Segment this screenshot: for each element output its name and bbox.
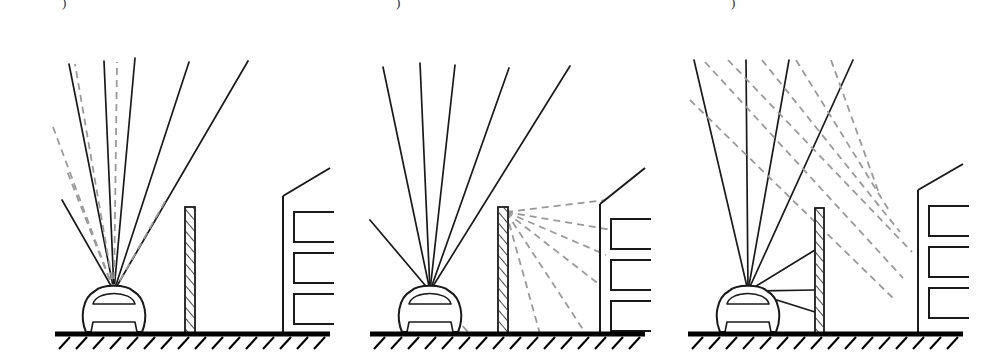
ground-hatch-tick: [828, 337, 839, 349]
ground-hatch-tick: [544, 337, 555, 349]
solid-sound-ray: [746, 60, 748, 291]
solid-sound-ray: [370, 220, 430, 291]
diffracted-sound-ray: [506, 212, 586, 334]
ground-hatch-tick: [391, 337, 402, 349]
building-window: [611, 260, 651, 290]
ground-hatch-tick: [229, 337, 240, 349]
ground-hatch-tick: [709, 337, 720, 349]
ground-hatch-tick: [612, 337, 623, 349]
ground-hatch-tick: [93, 337, 104, 349]
ground-hatch-tick: [178, 337, 189, 349]
ground-hatch-tick: [913, 337, 924, 349]
ground-hatch-tick: [743, 337, 754, 349]
ground-hatch-tick: [212, 337, 223, 349]
ground-hatch-tick: [896, 337, 907, 349]
dashed-sound-ray: [67, 171, 114, 291]
ground-hatch-tick: [760, 337, 771, 349]
ground-hatch-tick: [425, 337, 436, 349]
building-window: [611, 301, 651, 331]
solid-sound-ray: [694, 60, 748, 291]
sound-propagation-diagram: [0, 0, 1002, 364]
panel-c: [688, 60, 969, 349]
vehicle-sill: [91, 322, 137, 332]
ground-hatch-tick: [692, 337, 703, 349]
ground-hatch-tick: [459, 337, 470, 349]
diffracted-sound-ray: [506, 212, 600, 285]
ground-hatch-tick: [476, 337, 487, 349]
ground-hatch-tick: [161, 337, 172, 349]
diffracted-sound-ray: [506, 200, 606, 212]
building-window: [294, 212, 334, 242]
solid-sound-ray: [420, 63, 430, 291]
ground-hatch-tick: [493, 337, 504, 349]
ground-hatch-tick: [144, 337, 155, 349]
noise-barrier-hatch: [816, 209, 823, 333]
reflected-sound-ray: [690, 100, 895, 300]
ground-hatch-tick: [862, 337, 873, 349]
building-roof: [283, 168, 330, 196]
ground-hatch-tick: [263, 337, 274, 349]
ground-hatch-tick: [314, 337, 325, 349]
noise-barrier-hatch: [499, 208, 507, 333]
ground-hatch-tick: [76, 337, 87, 349]
building-window: [929, 247, 969, 277]
reflected-sound-ray: [705, 62, 903, 278]
building-window: [611, 219, 651, 249]
ground-hatch-tick: [947, 337, 958, 349]
building-window: [929, 288, 969, 318]
ground-hatch-tick: [879, 337, 890, 349]
ground-hatch-tick: [578, 337, 589, 349]
diffracted-sound-ray: [506, 212, 612, 230]
ground-hatch-tick: [442, 337, 453, 349]
solid-sound-ray: [104, 61, 114, 291]
ground-hatch-tick: [195, 337, 206, 349]
ground-hatch-tick: [595, 337, 606, 349]
panel-b: [370, 63, 651, 349]
ground-hatch-tick: [408, 337, 419, 349]
building-roof: [600, 168, 645, 204]
ground-hatch-tick: [246, 337, 257, 349]
solid-sound-ray: [114, 62, 189, 291]
ground-hatch-tick: [110, 337, 121, 349]
ground-hatch-tick: [777, 337, 788, 349]
figure-root: ) ) ): [0, 0, 1002, 364]
panels-layer: [53, 58, 969, 349]
ground-hatch-tick: [561, 337, 572, 349]
noise-barrier-hatch: [186, 208, 194, 333]
ground-hatch-tick: [794, 337, 805, 349]
ground-hatch-tick: [127, 337, 138, 349]
building-window: [294, 253, 334, 283]
ground-hatch-tick: [59, 337, 70, 349]
ground-hatch-tick: [374, 337, 385, 349]
ground-hatch-tick: [845, 337, 856, 349]
ground-hatch-tick: [930, 337, 941, 349]
ground-hatch-tick: [280, 337, 291, 349]
ground-hatch-tick: [811, 337, 822, 349]
solid-sound-ray: [69, 64, 114, 291]
ground-hatch-tick: [527, 337, 538, 349]
building-roof: [918, 164, 963, 190]
ground-hatch-tick: [297, 337, 308, 349]
building-window: [929, 206, 969, 236]
solid-sound-ray: [748, 60, 853, 291]
solid-sound-ray: [383, 67, 430, 291]
vehicle-sill: [407, 322, 453, 332]
panel-a: [53, 58, 334, 349]
diffracted-sound-ray: [506, 212, 540, 334]
ground-hatch-tick: [726, 337, 737, 349]
ground-hatch-tick: [629, 337, 640, 349]
building-window: [294, 294, 334, 324]
solid-sound-ray: [62, 200, 114, 291]
vehicle-sill: [725, 322, 771, 332]
ground-hatch-tick: [510, 337, 521, 349]
